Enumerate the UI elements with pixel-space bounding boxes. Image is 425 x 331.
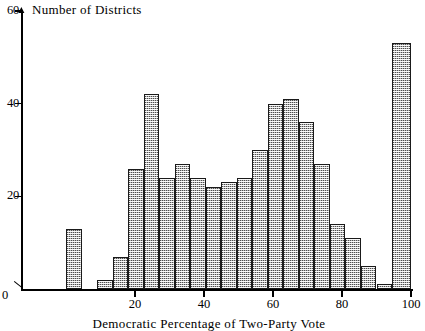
histogram-bar <box>345 238 361 289</box>
histogram-bar <box>128 169 144 289</box>
histogram-bar <box>190 178 206 289</box>
histogram-bar <box>252 150 268 289</box>
histogram-bar <box>159 178 175 289</box>
histogram-bar <box>377 284 393 289</box>
histogram-bar <box>237 178 253 289</box>
histogram-bar <box>97 280 113 289</box>
histogram-bar <box>268 104 284 289</box>
histogram-bar <box>299 122 315 289</box>
histogram-bar <box>206 187 222 289</box>
histogram-bar <box>392 43 411 289</box>
histogram-bar <box>314 164 330 289</box>
histogram-bar <box>283 99 299 289</box>
histogram-bar <box>66 229 82 289</box>
histogram-bar <box>221 182 237 289</box>
histogram-bar <box>113 257 129 289</box>
histogram-bar <box>361 266 377 289</box>
histogram-bar <box>144 94 160 289</box>
histogram-bar <box>175 164 191 289</box>
histogram-bar <box>330 224 346 289</box>
